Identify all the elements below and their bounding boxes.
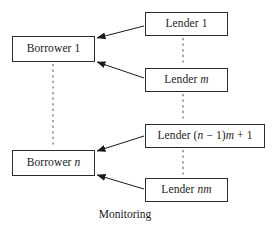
node-borrower-1: Borrower 1 xyxy=(12,36,95,62)
edge-lender-nm1-to-borrower-n xyxy=(97,136,144,151)
node-lender-n-minus-1-m-plus-1-label: Lender (n − 1)m + 1 xyxy=(155,130,254,142)
node-borrower-1-label: Borrower 1 xyxy=(25,43,83,55)
node-lender-n-minus-1-m-plus-1: Lender (n − 1)m + 1 xyxy=(145,124,265,148)
node-lender-1: Lender 1 xyxy=(145,12,228,36)
monitoring-diagram: Borrower 1 Borrower n Lender 1 Lender m … xyxy=(0,0,280,233)
node-lender-nm-label: Lender nm xyxy=(159,184,213,196)
diagram-caption: Monitoring xyxy=(60,208,190,220)
node-borrower-n-label: Borrower n xyxy=(25,157,83,169)
node-lender-nm: Lender nm xyxy=(145,178,228,202)
node-lender-m: Lender m xyxy=(145,68,228,92)
edge-lender-m-to-borrower-1 xyxy=(97,62,144,78)
edge-lender-nm-to-borrower-n xyxy=(97,175,144,189)
node-lender-m-label: Lender m xyxy=(162,74,211,86)
edge-lender-1-to-borrower-1 xyxy=(97,26,144,38)
node-lender-1-label: Lender 1 xyxy=(164,18,210,30)
connector-layer xyxy=(0,0,280,233)
node-borrower-n: Borrower n xyxy=(12,150,95,176)
